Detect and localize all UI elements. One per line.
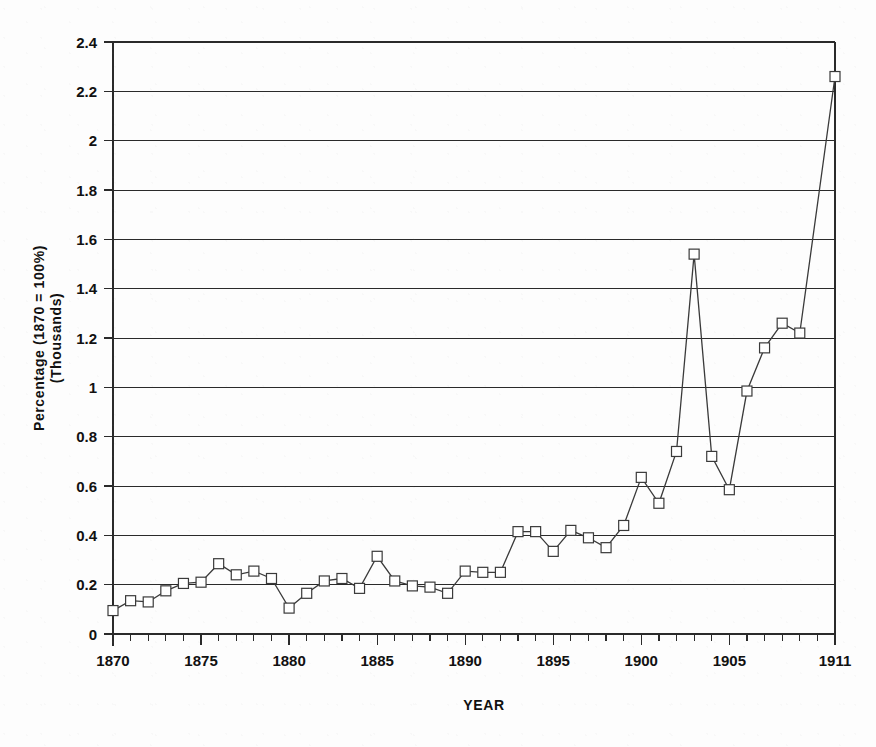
- data-point-marker: [319, 576, 329, 586]
- y-axis-tick-label: 2.4: [76, 34, 98, 51]
- data-point-marker: [478, 567, 488, 577]
- x-axis-tick-label: 1870: [96, 652, 129, 669]
- data-point-marker: [724, 485, 734, 495]
- data-point-marker: [266, 574, 276, 584]
- data-point-marker: [143, 597, 153, 607]
- data-point-marker: [513, 527, 523, 537]
- data-point-marker: [196, 577, 206, 587]
- data-point-marker: [214, 559, 224, 569]
- data-point-marker: [249, 566, 259, 576]
- data-point-marker: [372, 551, 382, 561]
- data-point-marker: [495, 567, 505, 577]
- data-point-marker: [777, 318, 787, 328]
- series-line: [113, 77, 835, 611]
- data-point-marker: [231, 570, 241, 580]
- data-point-marker: [531, 527, 541, 537]
- data-point-marker: [672, 446, 682, 456]
- axis-spines-group: [113, 42, 835, 646]
- data-point-marker: [302, 588, 312, 598]
- data-point-marker: [795, 328, 805, 338]
- x-axis-ticks-group: [113, 634, 835, 645]
- data-point-marker: [390, 576, 400, 586]
- data-point-marker: [548, 546, 558, 556]
- x-axis-tick-label: 1890: [449, 652, 482, 669]
- data-point-marker: [355, 583, 365, 593]
- data-point-marker: [583, 533, 593, 543]
- data-point-marker: [619, 520, 629, 530]
- y-axis-tick-labels-group: 00.20.40.60.811.21.41.61.822.22.4: [76, 34, 98, 643]
- data-point-marker: [654, 498, 664, 508]
- data-series-group: [108, 72, 840, 616]
- series-markers-group: [108, 72, 840, 616]
- data-point-marker: [126, 596, 136, 606]
- axis-titles-group: YEAR Percentage (1870 = 100%) (Thousands…: [31, 245, 505, 713]
- x-axis-tick-label: 1875: [184, 652, 217, 669]
- y-axis-tick-label: 2: [89, 132, 97, 149]
- y-axis-title-line1: Percentage (1870 = 100%): [31, 245, 47, 431]
- x-axis-tick-label: 1905: [713, 652, 746, 669]
- y-axis-tick-label: 1.2: [76, 330, 97, 347]
- data-point-marker: [830, 72, 840, 82]
- data-point-marker: [636, 472, 646, 482]
- data-point-marker: [337, 574, 347, 584]
- x-axis-tick-label: 1911: [819, 652, 852, 669]
- data-point-marker: [161, 586, 171, 596]
- x-axis-title: YEAR: [463, 697, 504, 713]
- data-point-marker: [460, 566, 470, 576]
- data-point-marker: [760, 343, 770, 353]
- data-point-marker: [407, 581, 417, 591]
- y-axis-tick-label: 1.6: [76, 231, 97, 248]
- chart-canvas: 00.20.40.60.811.21.41.61.822.22.4 187018…: [0, 0, 876, 747]
- y-axis-tick-label: 1.4: [76, 280, 98, 297]
- y-axis-tick-label: 0.6: [76, 478, 97, 495]
- x-axis-tick-labels-group: 187018751880188518901895190019051911: [96, 652, 851, 669]
- data-point-marker: [425, 582, 435, 592]
- data-point-marker: [284, 603, 294, 613]
- data-point-marker: [178, 578, 188, 588]
- y-axis-title-line2: (Thousands): [48, 293, 64, 384]
- gridlines-group: [113, 42, 835, 585]
- y-axis-ticks-group: [104, 42, 113, 634]
- y-axis-tick-label: 0.4: [76, 527, 98, 544]
- data-point-marker: [707, 451, 717, 461]
- y-axis-tick-label: 0.8: [76, 428, 97, 445]
- y-axis-tick-label: 0: [89, 626, 97, 643]
- x-axis-tick-label: 1895: [537, 652, 570, 669]
- data-point-marker: [689, 249, 699, 259]
- data-point-marker: [566, 525, 576, 535]
- x-axis-tick-label: 1880: [272, 652, 305, 669]
- x-axis-tick-label: 1885: [360, 652, 393, 669]
- data-point-marker: [443, 588, 453, 598]
- y-axis-tick-label: 0.2: [76, 576, 97, 593]
- x-axis-tick-label: 1900: [625, 652, 658, 669]
- data-point-marker: [108, 606, 118, 616]
- y-axis-tick-label: 1.8: [76, 182, 97, 199]
- y-axis-tick-label: 1: [89, 379, 97, 396]
- data-point-marker: [742, 386, 752, 396]
- y-axis-tick-label: 2.2: [76, 83, 97, 100]
- chart-figure: 00.20.40.60.811.21.41.61.822.22.4 187018…: [0, 0, 876, 747]
- data-point-marker: [601, 543, 611, 553]
